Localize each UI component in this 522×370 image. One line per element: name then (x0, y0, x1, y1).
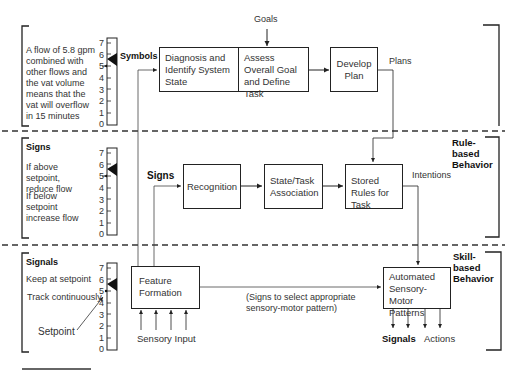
gauge-tick: 3 (96, 196, 104, 205)
state-task-association-box: State/Task Association (264, 164, 323, 209)
gauge-tick: 7 (96, 39, 104, 48)
symbols-label: Symbols (120, 51, 158, 62)
gauge-tick: 2 (96, 207, 104, 216)
plans-label: Plans (389, 56, 412, 67)
gauge-tick: 0 (96, 120, 104, 129)
gauge-tick: 2 (96, 97, 104, 106)
gauge-tick: 0 (96, 230, 104, 239)
stored-rules-box: Stored Rules for Task (345, 164, 403, 209)
sensory-input-label: Sensory Input (137, 333, 196, 344)
skill-panel-line: Keep at setpoint (26, 274, 91, 285)
state-task-association-label: State/Task Association (270, 175, 319, 198)
gauge-tick: 0 (96, 345, 104, 354)
knowledge-panel-text: A flow of 5.8 gpm combined with other fl… (26, 45, 96, 122)
recognition-label: Recognition (187, 181, 237, 193)
gauge-tick: 6 (96, 276, 104, 285)
rule-panel-heading: Signs (26, 142, 51, 153)
signs-label: Signs (147, 170, 174, 181)
skill-based-title: Skill-based Behavior (453, 251, 503, 284)
automated-patterns-box: Automated Sensory-Motor Patterns (383, 267, 451, 309)
signals-output-label: Signals (382, 333, 416, 344)
gauge-tick: 1 (96, 109, 104, 118)
intentions-label: Intentions (412, 170, 451, 181)
gauge-tick: 4 (96, 74, 104, 83)
develop-plan-label: Develop Plan (336, 58, 372, 82)
goals-label: Goals (254, 14, 278, 25)
gauge-tick: 5 (96, 62, 104, 71)
gauge-tick: 5 (96, 172, 104, 181)
rule-based-title: Rule-based Behavior (452, 137, 502, 170)
develop-plan-box: Develop Plan (330, 47, 378, 92)
gauge-tick: 4 (96, 184, 104, 193)
gauge-tick: 3 (96, 86, 104, 95)
gauge-tick: 3 (96, 311, 104, 320)
gauge-tick: 1 (96, 334, 104, 343)
feature-formation-box: Feature Formation (131, 266, 200, 309)
stored-rules-label: Stored Rules for Task (351, 175, 389, 210)
gauge-tick: 6 (96, 161, 104, 170)
feature-formation-label: Feature Formation (139, 275, 182, 298)
gauge-tick: 2 (96, 322, 104, 331)
actions-output-label: Actions (424, 333, 455, 344)
assess-box: Assess Overall Goal and Define Task (238, 47, 309, 92)
rule-panel-line: If below setpoint increase flow (26, 191, 88, 224)
gauge-tick: 7 (96, 264, 104, 273)
skill-panel-line: Track continuously (27, 292, 102, 303)
setpoint-label: Setpoint (38, 326, 75, 337)
diagnosis-box: Diagnosis and Identify System State (159, 47, 241, 92)
gauge-tick: 7 (96, 149, 104, 158)
recognition-box: Recognition (183, 164, 241, 209)
diagnosis-label: Diagnosis and Identify System State (165, 52, 230, 87)
assess-label: Assess Overall Goal and Define Task (244, 52, 297, 99)
sign-select-note: (Signs to select appropriate sensory-mot… (246, 292, 376, 314)
gauge-tick: 1 (96, 219, 104, 228)
skill-panel-heading: Signals (26, 257, 58, 268)
gauge-tick: 6 (96, 51, 104, 60)
